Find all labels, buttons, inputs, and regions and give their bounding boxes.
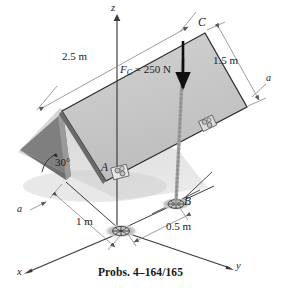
force-value: = 250 N — [132, 63, 171, 75]
figure-caption: Probs. 4–164/165 — [0, 266, 281, 278]
angle-30deg-label: 30° — [55, 157, 70, 168]
z-axis-arrow — [114, 14, 121, 21]
ext-line-1-5m-a — [207, 22, 225, 30]
support-origin — [103, 224, 139, 238]
ext-line-2-5m-b — [180, 12, 196, 32]
force-fc-label: FC = 250 N — [120, 64, 171, 77]
ext-line-2-5m-a — [37, 86, 57, 110]
point-a-label: A — [101, 162, 108, 174]
point-b-label: B — [184, 196, 191, 208]
ext-line-1m-b — [108, 236, 120, 250]
figure-container: z x y C A B a a 2.5 m 1.5 m 1 m 0.5 m 30… — [0, 0, 281, 293]
dimension-1-5m-label: 1.5 m — [213, 55, 238, 66]
dimension-1m-label: 1 m — [76, 216, 93, 227]
dimension-2-5m-label: 2.5 m — [62, 51, 87, 62]
section-a-right-label: a — [266, 73, 271, 83]
force-symbol: F — [120, 63, 127, 75]
dimension-0-5m-label: 0.5 m — [166, 221, 191, 232]
z-axis-label: z — [111, 3, 115, 14]
diagram-canvas — [0, 0, 281, 293]
leader-section-a-left — [30, 202, 46, 210]
ext-line-1-5m-b — [248, 98, 266, 106]
section-a-left-label: a — [17, 204, 22, 214]
point-c-label: C — [198, 17, 206, 29]
plate-underside — [20, 112, 71, 180]
y-axis-line — [124, 232, 230, 268]
